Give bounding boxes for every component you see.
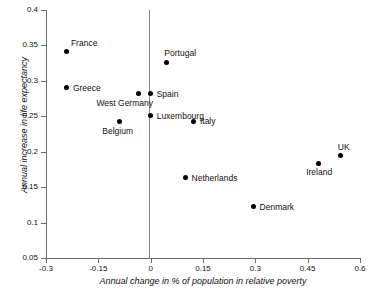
data-point[interactable]	[64, 85, 69, 90]
data-point[interactable]	[316, 161, 321, 166]
data-point[interactable]	[251, 204, 256, 209]
data-point-label: Belgium	[102, 127, 133, 136]
data-point-label: Luxembourg	[157, 112, 204, 121]
y-tick	[41, 187, 46, 188]
x-tick-label: 0.45	[288, 265, 328, 273]
data-point-label: Portugal	[164, 49, 196, 58]
y-tick	[41, 45, 46, 46]
data-point-label: West Germany	[96, 99, 153, 108]
y-tick	[41, 223, 46, 224]
data-point-label: Italy	[200, 117, 216, 126]
data-point[interactable]	[164, 60, 169, 65]
scatter-plot: 0.050.10.150.20.250.30.350.4 -0.3-0.1500…	[0, 0, 374, 294]
x-tick	[255, 258, 256, 263]
data-point-label: UK	[338, 143, 350, 152]
y-tick-label: 0.4	[2, 6, 38, 14]
x-tick	[151, 258, 152, 263]
y-axis-line	[46, 10, 47, 259]
data-point[interactable]	[148, 113, 153, 118]
data-point-label: Denmark	[260, 203, 294, 212]
x-tick	[98, 258, 99, 263]
x-tick-label: -0.15	[78, 265, 118, 273]
data-point[interactable]	[148, 91, 153, 96]
data-point[interactable]	[183, 175, 188, 180]
data-point-label: Ireland	[306, 168, 332, 177]
data-point-label: Greece	[73, 84, 101, 93]
y-tick	[41, 10, 46, 11]
x-axis-title: Annual change in % of population in rela…	[46, 276, 360, 286]
x-tick	[360, 258, 361, 263]
data-point-label: Spain	[157, 90, 179, 99]
y-axis-title: Annual increase in life expectancy	[19, 15, 29, 235]
x-tick	[203, 258, 204, 263]
y-tick	[41, 116, 46, 117]
x-tick	[46, 258, 47, 263]
x-tick	[308, 258, 309, 263]
data-point[interactable]	[117, 119, 122, 124]
data-point[interactable]	[64, 49, 69, 54]
y-tick	[41, 81, 46, 82]
data-point[interactable]	[136, 91, 141, 96]
x-tick-label: -0.3	[26, 265, 66, 273]
data-point-label: Netherlands	[192, 174, 238, 183]
y-tick-label: 0.05	[2, 254, 38, 262]
x-tick-label: 0.3	[235, 265, 275, 273]
x-tick-label: 0.15	[183, 265, 223, 273]
data-point[interactable]	[338, 153, 343, 158]
data-point[interactable]	[191, 119, 196, 124]
x-tick-label: 0.6	[340, 265, 374, 273]
data-point-label: France	[71, 39, 97, 48]
x-tick-label: 0	[131, 265, 171, 273]
zero-reference-line	[149, 10, 150, 259]
y-tick	[41, 152, 46, 153]
